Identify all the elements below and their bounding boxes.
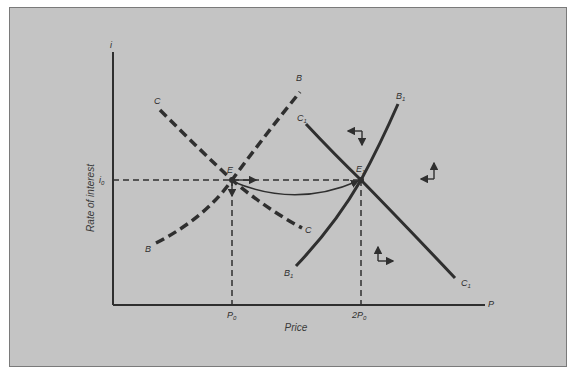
y-axis-title: Rate of interest (85, 163, 96, 232)
reference-lines (113, 180, 361, 305)
point-e1-label: E1 (356, 164, 365, 175)
curve-b-label-top: B (296, 73, 302, 83)
curve-c1-label-bottom: C1 (461, 278, 471, 289)
p0-label: P0 (227, 310, 237, 321)
x-axis-title: Price (285, 322, 308, 333)
2p0-label: 2P0 (351, 310, 367, 321)
point-e-label: E (227, 165, 234, 175)
curve-b1-label-bottom: B1 (284, 268, 293, 279)
curve-c-label-bottom: C (305, 225, 312, 235)
direction-arrows-upper (348, 131, 362, 145)
curve-c-label-top: C (154, 96, 161, 106)
i0-label: i0 (99, 175, 105, 186)
direction-arrows-lower (378, 247, 393, 261)
curve-b-label-bottom: B (145, 244, 151, 254)
x-axis-symbol: P (488, 299, 494, 309)
point-e1 (358, 177, 364, 183)
adjustment-arrow (234, 181, 358, 195)
direction-arrows-right (421, 163, 434, 179)
curve-c1 (306, 124, 455, 278)
diagram-canvas: i P Rate of interest Price i0 P0 2P0 C C… (0, 0, 572, 375)
curve-b1-label-top: B1 (396, 91, 405, 102)
curve-c1-label-top: C1 (297, 113, 307, 124)
y-axis-symbol: i (110, 40, 113, 50)
